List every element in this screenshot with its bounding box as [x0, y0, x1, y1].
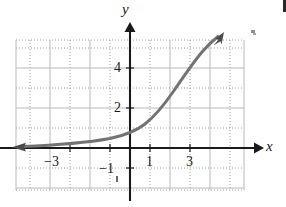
y-axis [125, 22, 136, 201]
x-tick-label-neg1: −1 [99, 162, 114, 176]
x-axis [0, 143, 264, 154]
y-tick-label-2: 2 [114, 101, 121, 115]
coordinate-plane-svg [0, 0, 286, 207]
graph-figure: y x −3 −1 1 3 2 4 [0, 0, 286, 207]
x-axis-label: x [266, 139, 273, 154]
x-tick-label-1: 1 [146, 155, 153, 169]
y-tick-label-4: 4 [114, 61, 121, 75]
x-tick-label-3: 3 [186, 155, 193, 169]
y-axis-label: y [122, 2, 129, 17]
exponential-curve [12, 32, 224, 151]
x-tick-label-neg3: −3 [44, 155, 59, 169]
scan-artifact-marks [116, 0, 286, 182]
